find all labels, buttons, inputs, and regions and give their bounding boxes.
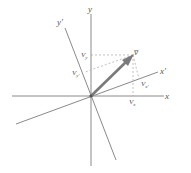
projection-v-x-prime [133,55,139,79]
v-y-label: Vy [81,51,88,60]
vector-v-shaft [91,60,128,96]
y-prime-axis-label: y' [56,17,64,27]
v-x-prime-label: Vx' [141,80,150,89]
v-x-label: Vx [129,98,136,107]
coordinate-rotation-diagram: x y x' y' v̅ Vy Vy' Vx Vx' [0,0,191,173]
x-prime-axis-label: x' [159,66,167,76]
x-prime-axis [16,72,158,124]
vector-v-label: v̅ [134,47,139,57]
v-y-prime-label: Vy' [72,69,81,78]
x-axis-label: x [164,91,169,101]
origin-point [89,94,92,97]
y-axis-label: y [87,4,92,14]
